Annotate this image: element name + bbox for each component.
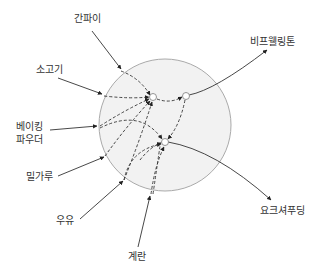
arrow-ganpai <box>92 31 121 69</box>
hidden-node-c <box>162 139 169 146</box>
label-beef-wellington: 비프웰링톤 <box>250 36 295 48</box>
label-sogogi: 소고기 <box>36 64 63 76</box>
label-ganpai: 간파이 <box>74 13 101 25</box>
label-milgaru: 밀가루 <box>26 171 53 183</box>
arrow-milgaru <box>58 157 104 176</box>
hidden-node-a <box>150 94 157 101</box>
arrow-sogogi <box>58 78 102 94</box>
arrow-gyeran <box>138 196 150 247</box>
label-baking-powder-line2: 파우더 <box>16 133 43 146</box>
label-gyeran: 계란 <box>128 251 146 263</box>
process-circle <box>99 59 231 191</box>
hidden-node-b <box>183 93 190 100</box>
label-uyu: 우유 <box>56 215 74 227</box>
label-yorkshire-pudding: 요크셔푸딩 <box>260 205 305 217</box>
arrow-baking-powder <box>50 126 97 130</box>
label-baking-powder: 베이킹 파우더 <box>16 120 43 146</box>
label-baking-powder-line1: 베이킹 <box>16 120 43 133</box>
arrow-uyu <box>80 181 123 219</box>
